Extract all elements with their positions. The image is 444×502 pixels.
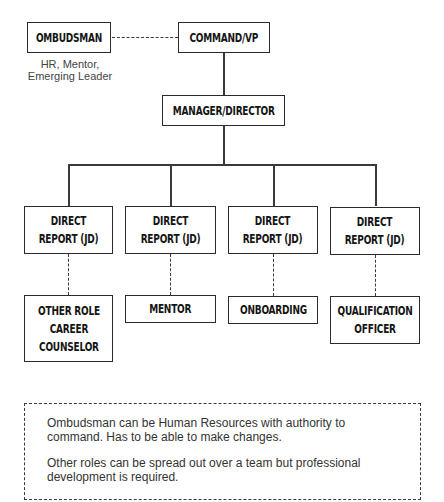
- onboarding-node: ONBOARDING: [228, 296, 318, 324]
- command-manager-connector: [223, 53, 225, 95]
- note-paragraph-2: Other roles can be spread out over a tea…: [47, 456, 400, 484]
- qualification-officer-node: QUALIFICATION OFFICER: [330, 296, 420, 344]
- role-dotted-connector-3: [273, 254, 274, 296]
- note-box: Ombudsman can be Human Resources with au…: [24, 403, 421, 500]
- role-label: OTHER ROLE CAREER COUNSELOR: [38, 302, 100, 356]
- branch-connector-1: [68, 164, 70, 206]
- ombudsman-command-dotted-connector: [112, 37, 178, 38]
- career-counselor-node: OTHER ROLE CAREER COUNSELOR: [24, 295, 113, 362]
- direct-report-node-2: DIRECT REPORT (JD): [125, 206, 216, 254]
- note-paragraph-1: Ombudsman can be Human Resources with au…: [47, 416, 400, 444]
- manager-director-label: MANAGER/DIRECTOR: [173, 102, 275, 120]
- role-label: MENTOR: [149, 300, 191, 318]
- direct-report-label: DIRECT REPORT (JD): [243, 212, 303, 248]
- command-vp-node: COMMAND/VP: [178, 22, 270, 53]
- ombudsman-caption: HR, Mentor, Emerging Leader: [22, 58, 118, 82]
- direct-report-node-1: DIRECT REPORT (JD): [24, 206, 113, 254]
- manager-director-node: MANAGER/DIRECTOR: [162, 95, 285, 126]
- ombudsman-label: OMBUDSMAN: [36, 29, 102, 47]
- mentor-node: MENTOR: [125, 295, 216, 323]
- branch-connector-3: [273, 164, 275, 206]
- direct-report-label: DIRECT REPORT (JD): [39, 212, 99, 248]
- horizontal-bus-connector: [68, 164, 376, 166]
- direct-report-node-3: DIRECT REPORT (JD): [228, 206, 318, 254]
- ombudsman-node: OMBUDSMAN: [27, 22, 111, 53]
- command-vp-label: COMMAND/VP: [190, 29, 259, 47]
- branch-connector-2: [170, 164, 172, 206]
- manager-trunk-connector: [223, 126, 225, 165]
- role-label: ONBOARDING: [240, 301, 307, 319]
- role-dotted-connector-4: [375, 255, 376, 296]
- direct-report-node-4: DIRECT REPORT (JD): [330, 207, 420, 255]
- branch-connector-4: [375, 164, 377, 206]
- role-dotted-connector-1: [68, 254, 69, 295]
- direct-report-label: DIRECT REPORT (JD): [345, 213, 405, 249]
- direct-report-label: DIRECT REPORT (JD): [141, 212, 201, 248]
- role-dotted-connector-2: [170, 254, 171, 295]
- role-label: QUALIFICATION OFFICER: [338, 302, 413, 338]
